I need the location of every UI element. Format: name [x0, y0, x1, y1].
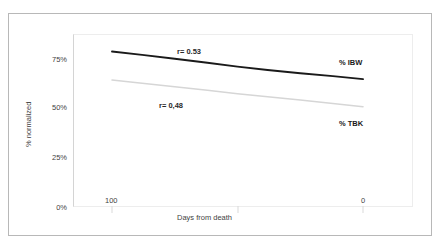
- annotation-r-ibw: r= 0.53: [177, 47, 201, 56]
- series-label-tbk: % TBK: [339, 119, 363, 128]
- y-tick-label-50: 50%: [33, 103, 67, 112]
- y-tick-label-25: 25%: [33, 153, 67, 162]
- y-tick-label-75: 75%: [33, 55, 67, 64]
- y-tick-label-0: 0%: [33, 203, 67, 212]
- annotation-r-tbk: r= 0,48: [159, 101, 183, 110]
- x-tick-label-100: 100: [105, 196, 118, 205]
- figure-container: 75% 50% 25% 0% % normalized 100 0 Days f…: [0, 0, 440, 247]
- chart-frame: 75% 50% 25% 0% % normalized 100 0 Days f…: [8, 13, 432, 236]
- series-label-ibw: % IBW: [339, 58, 362, 67]
- x-axis-title: Days from death: [177, 213, 232, 222]
- x-tick-label-0: 0: [361, 196, 365, 205]
- y-axis-title: % normalized: [24, 102, 33, 147]
